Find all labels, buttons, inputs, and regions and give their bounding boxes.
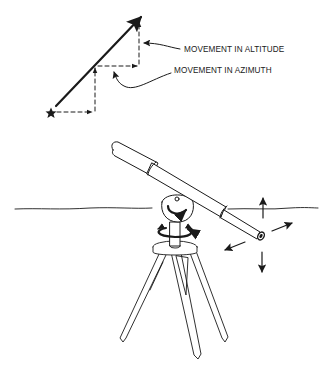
altitude-leader-arrow xyxy=(144,43,180,49)
azimuth-label: MOVEMENT IN AZIMUTH xyxy=(174,66,272,75)
azimuth-leader-arrow xyxy=(114,72,171,88)
alt-az-diagram: MOVEMENT IN ALTITUDE MOVEMENT IN AZIMUTH xyxy=(0,0,331,374)
tripod-illustration xyxy=(120,241,228,359)
telescope-illustration xyxy=(112,142,266,241)
arrow-right-icon xyxy=(272,223,292,231)
resultant-motion-arrow xyxy=(56,17,141,106)
dashed-component-steps xyxy=(57,22,139,112)
altitude-label: MOVEMENT IN ALTITUDE xyxy=(184,45,285,54)
mount-fork xyxy=(158,195,193,246)
arrow-left-icon xyxy=(225,242,245,250)
movement-vector-diagram: MOVEMENT IN ALTITUDE MOVEMENT IN AZIMUTH xyxy=(46,17,285,118)
star-icon xyxy=(46,108,57,119)
